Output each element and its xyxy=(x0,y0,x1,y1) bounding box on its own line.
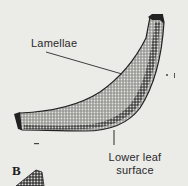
speck xyxy=(34,143,39,144)
speck xyxy=(174,73,175,78)
lower-leaf-surface-line1: Lower leaf xyxy=(104,151,166,164)
panel-letter: B xyxy=(12,163,21,179)
lower-leaf-surface-line2: surface xyxy=(104,164,166,177)
lamellae-label: Lamellae xyxy=(31,37,77,50)
speck xyxy=(166,74,168,76)
lamellae-leader-line xyxy=(46,52,122,74)
lower-leaf-surface-label: Lower leaf surface xyxy=(104,151,166,177)
leaf-body xyxy=(16,15,164,131)
leaf-cross-section-figure: Lamellae Lower leaf surface B xyxy=(0,0,188,186)
